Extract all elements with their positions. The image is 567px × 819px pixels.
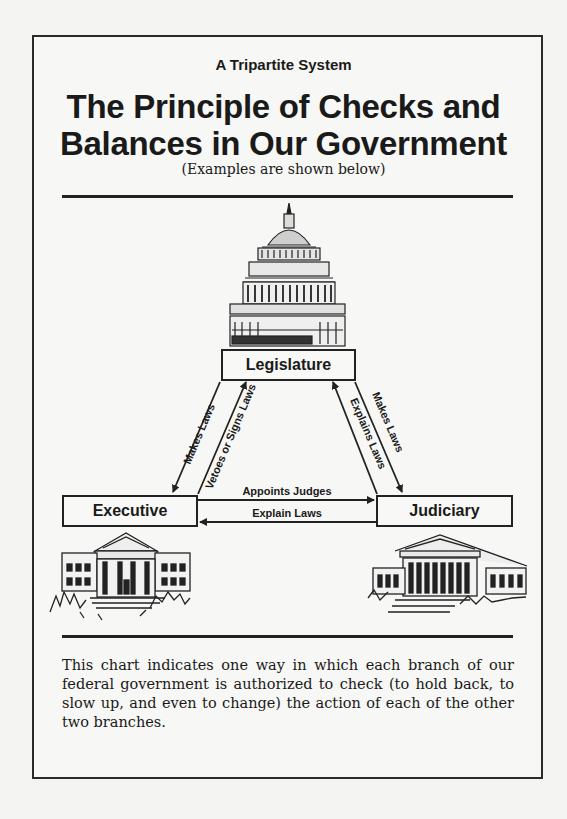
arrow-label-exec-to-leg: Vetoes or Signs Laws (203, 382, 258, 491)
legislature-box: Legislature (221, 349, 356, 381)
legislature-label: Legislature (246, 356, 331, 374)
executive-label: Executive (93, 502, 168, 520)
supreme-court-icon (368, 535, 527, 612)
executive-box: Executive (62, 495, 198, 527)
caption-text: This chart indicates one way in which ea… (62, 656, 514, 732)
arrow-label-exec-to-jud: Appoints Judges (242, 485, 331, 497)
arrow-label-jud-to-exec: Explain Laws (252, 507, 322, 519)
capitol-icon (230, 203, 345, 346)
arrow-label-leg-to-exec: Makes Laws (181, 402, 217, 466)
judiciary-box: Judiciary (376, 495, 513, 527)
bottom-divider (62, 635, 513, 638)
judiciary-label: Judiciary (409, 502, 479, 520)
white-house-icon (50, 533, 190, 620)
